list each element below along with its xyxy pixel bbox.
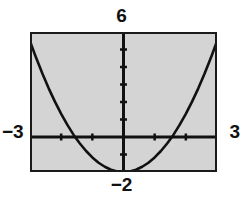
plot-canvas — [30, 32, 217, 172]
y-axis-min-label: −2 — [0, 175, 243, 194]
plot-window — [30, 32, 217, 172]
graph-figure: 6 −3 3 −2 — [0, 0, 243, 199]
x-axis-max-label: 3 — [229, 122, 240, 141]
x-axis-min-label: −3 — [2, 122, 24, 141]
y-axis-max-label: 6 — [0, 6, 243, 25]
